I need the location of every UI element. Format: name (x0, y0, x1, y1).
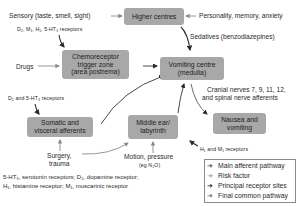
middle-ear-line1: Middle ear/ (136, 119, 170, 127)
legend-label: Main afferent pathway (218, 162, 285, 170)
footnote-line1: 5-HT₃, serotonin receptors; D₂, dopamine… (3, 173, 139, 181)
middle-ear-line2: labyrinth (140, 127, 166, 135)
nausea-line1: Nausea and (221, 116, 258, 124)
ctz-receptors-label: D₂, M₁, H₁, 5-HT₃ receptors (17, 26, 82, 34)
arrow-icon: ➜ (207, 162, 215, 170)
legend: ➜ Main afferent pathway ➜ Risk factor ➜ … (204, 159, 296, 203)
vomiting-line2: (medulla) (178, 69, 206, 77)
motion-line2: (eg N₂O) (139, 162, 160, 170)
motion-line1: Motion, pressure (124, 153, 173, 161)
vomiting-centre-box: Vomiting centre (medulla) (160, 57, 224, 80)
ctz-line3: (area postrema) (71, 68, 119, 76)
middle-ear-labyrinth-box: Middle ear/ labyrinth (128, 115, 178, 139)
nausea-line2: vomiting (227, 124, 252, 132)
higher-centres-box: Higher centres (124, 8, 184, 25)
somatic-visceral-afferents-box: Somatic and visceral afferents (27, 117, 93, 137)
chemoreceptor-trigger-zone-box: Chemoreceptor trigger zone (area postrem… (62, 50, 129, 79)
arrow-icon: ➜ (207, 182, 215, 190)
sedatives-label: Sedatives (benzodiazepines) (190, 33, 275, 41)
ctz-line2: trigger zone (78, 61, 114, 69)
footnote-line2: H₁, histamine receptor; M₁, muscarinic r… (3, 182, 128, 190)
sensory-label: Sensory (taste, smell, sight) (9, 12, 90, 20)
higher-centres-label: Higher centres (132, 13, 176, 21)
legend-label: Risk factor (218, 172, 250, 180)
somatic-receptors-label: D₂ and 5-HT₃ receptors (8, 95, 64, 103)
surgery-line2: trauma (49, 160, 70, 168)
legend-label: Principal receptor sites (218, 182, 287, 190)
ctz-line1: Chemoreceptor (72, 53, 119, 61)
somatic-line1: Somatic and (41, 119, 79, 127)
surgery-line1: Surgery, (47, 152, 71, 160)
legend-main-afferent: ➜ Main afferent pathway (207, 161, 293, 171)
personality-label: Personality, memory, anxiety (199, 12, 283, 20)
nausea-vomiting-box: Nausea and vomiting (213, 113, 266, 134)
legend-label: Final common pathway (218, 192, 288, 200)
cranial-nerves-line1: Cranial nerves 7, 9, 11, 12, (207, 86, 286, 94)
drugs-label: Drugs (16, 63, 34, 71)
legend-principal-receptor: ➜ Principal receptor sites (207, 181, 293, 191)
cranial-nerves-line2: and spinal nerve afferents (202, 94, 278, 102)
arrow-icon: ➜ (207, 192, 215, 200)
h1-m1-receptors-label: H₁ and M₁ receptors (200, 146, 248, 154)
somatic-line2: visceral afferents (34, 127, 85, 135)
arrow-icon: ➜ (207, 172, 215, 180)
vomiting-line1: Vomiting centre (169, 61, 216, 69)
legend-final-common: ➜ Final common pathway (207, 191, 293, 201)
legend-risk-factor: ➜ Risk factor (207, 171, 293, 181)
